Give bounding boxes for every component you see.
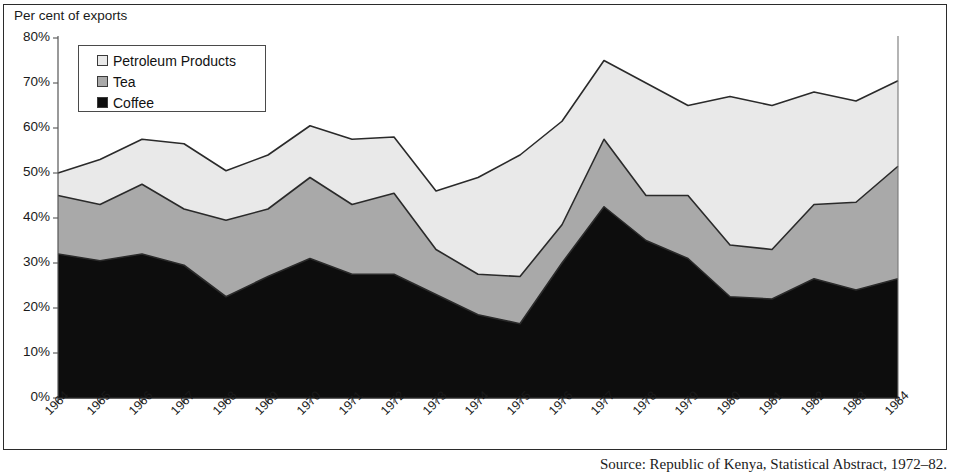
y-tick-label: 20% [4,299,50,314]
legend-item-tea[interactable]: Tea [97,71,265,92]
legend-item-coffee[interactable]: Coffee [97,92,265,113]
y-tick-label: 10% [4,344,50,359]
y-tick-label: 70% [4,74,50,89]
y-tick-label: 30% [4,254,50,269]
chart-figure: Per cent of exports 0%10%20%30%40%50%60%… [0,0,955,472]
legend-swatch-coffee [97,97,108,108]
y-tick-label: 80% [4,29,50,44]
y-tick-label: 60% [4,119,50,134]
chart-legend: Petroleum Products Tea Coffee [78,45,266,112]
source-caption: Source: Republic of Kenya, Statistical A… [0,456,955,472]
legend-swatch-petroleum-products [97,55,108,66]
legend-label-tea: Tea [113,74,136,90]
y-tick-label: 40% [4,209,50,224]
legend-swatch-tea [97,76,108,87]
legend-label-coffee: Coffee [113,95,154,111]
y-tick-label: 50% [4,164,50,179]
y-tick-label: 0% [4,389,50,404]
legend-label-petroleum-products: Petroleum Products [113,53,236,69]
legend-item-petroleum-products[interactable]: Petroleum Products [97,50,265,71]
